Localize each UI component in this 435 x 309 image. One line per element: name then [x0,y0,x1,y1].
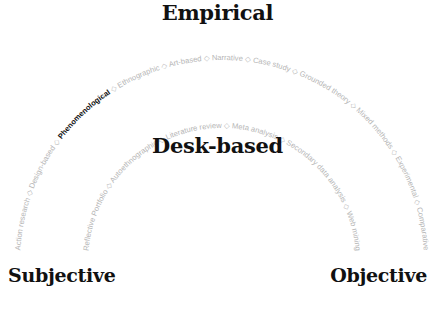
objective-label: Objective [330,264,427,286]
method-label: Action research [13,197,32,251]
method-label: Art-based [168,54,202,69]
desk-based-title: Desk-based [0,133,435,158]
method-label: Case study [252,55,292,73]
method-label: Reflective Portfolio [81,188,109,252]
method-label: Web mining [345,210,363,251]
method-label: Grounded theory [298,69,352,106]
separator-icon: ◇ [242,54,253,64]
subjective-label: Subjective [8,264,115,286]
empirical-title: Empirical [0,0,435,25]
method-label: Narrative [212,53,244,63]
separator-icon: ◇ [201,53,212,63]
method-label: Ethnographic [116,63,161,90]
method-label: Experimental [393,154,420,199]
method-label: Comparative [415,206,431,250]
separator-icon: ◇ [222,121,233,130]
